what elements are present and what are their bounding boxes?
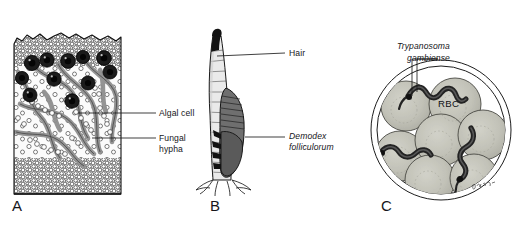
label-fungal-hypha-line2: hypha	[159, 144, 183, 155]
label-trypanosoma-line1: Trypanosoma	[342, 41, 450, 52]
panel-b-demodex-diagram	[196, 29, 285, 196]
panel-c-blood-smear-diagram	[371, 59, 511, 205]
label-demodex-line2: folliculorum	[289, 142, 334, 153]
label-hair: Hair	[289, 48, 305, 59]
figure-canvas: Algal cell Fungal hypha Hair Demodex fol…	[0, 0, 528, 230]
biology-figure-illustration	[0, 0, 528, 230]
label-trypanosoma-line2: gambiense	[342, 53, 450, 64]
panel-a-lichen-diagram	[10, 30, 156, 198]
panel-letter-b: B	[210, 197, 220, 214]
label-fungal-hypha-line1: Fungal	[159, 133, 186, 144]
panel-letter-c: C	[381, 197, 392, 214]
panel-letter-a: A	[12, 197, 22, 214]
label-rbc: RBC	[438, 98, 459, 109]
follicle-root-lines	[196, 180, 251, 196]
label-algal-cell: Algal cell	[159, 108, 194, 119]
label-demodex-line1: Demodex	[289, 131, 326, 142]
